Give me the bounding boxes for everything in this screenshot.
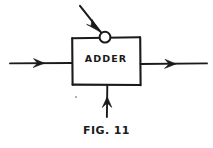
adder-block-outline (72, 37, 140, 85)
diagonal-input-arrow (80, 6, 101, 33)
summing-junction-circle (100, 32, 111, 43)
left-input-arrow (10, 59, 72, 68)
stray-ink-speck (75, 96, 77, 98)
figure-caption: FIG. 11 (0, 124, 213, 137)
right-output-arrow (141, 59, 208, 68)
bottom-input-arrow (102, 85, 112, 117)
